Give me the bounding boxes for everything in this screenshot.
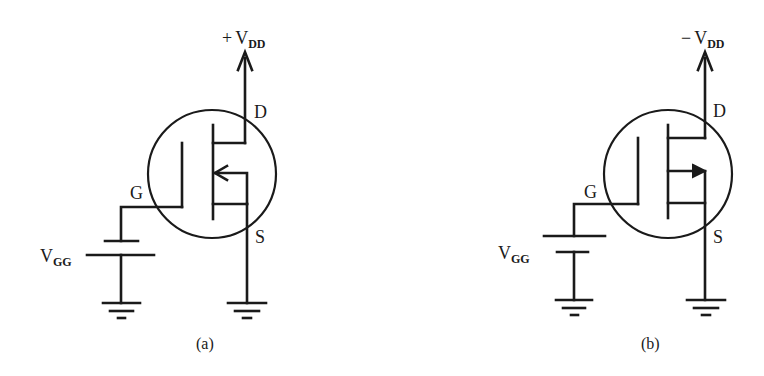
gate-a-label: G <box>130 183 143 203</box>
gate-b-wire <box>574 204 638 236</box>
vgg-a-label: VGG <box>40 246 72 269</box>
caption-b: (b) <box>641 335 660 353</box>
drain-b-label: D <box>713 101 726 121</box>
source-b-label: S <box>713 227 723 247</box>
ground-a-source-icon <box>228 303 266 318</box>
ground-b-gate-icon <box>556 300 592 315</box>
vdd-a-label: +VDD <box>222 28 266 51</box>
ground-a-gate-icon <box>103 303 140 318</box>
ground-b-source-icon <box>687 300 725 315</box>
mosfet-bias-diagram: +VDD D G S VGG (a) −VDD D <box>0 0 764 376</box>
drain-a-label: D <box>254 102 267 122</box>
panel-b: −VDD D G S VGG (b) <box>498 28 732 353</box>
source-a-label: S <box>255 227 265 247</box>
vdd-b-label: −VDD <box>681 28 725 51</box>
body-a-wire <box>215 173 247 204</box>
gate-b-label: G <box>584 182 597 202</box>
panel-a: +VDD D G S VGG (a) <box>40 28 276 353</box>
caption-a: (a) <box>196 335 214 353</box>
body-b-arrow-icon <box>693 165 705 177</box>
vgg-b-label: VGG <box>498 243 530 266</box>
